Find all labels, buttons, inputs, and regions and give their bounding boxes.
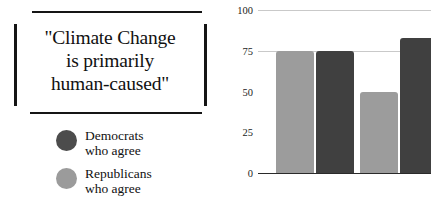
republicans-swatch-icon xyxy=(56,168,77,189)
bar-chart: 0255075100 AGE18-38AGE55+ xyxy=(238,0,431,218)
legend-label-democrats: Democrats who agree xyxy=(85,128,143,157)
legend-item-republicans: Republicans who agree xyxy=(56,166,206,195)
democrats-line-1: Democrats xyxy=(85,128,143,143)
y-tick-label-75: 75 xyxy=(243,45,259,56)
y-tick-label-0: 0 xyxy=(248,168,258,179)
democrats-swatch-icon xyxy=(56,130,77,151)
top-rule xyxy=(32,11,202,13)
y-tick-label-25: 25 xyxy=(243,127,259,138)
bar-1-1 xyxy=(276,51,314,173)
legend-label-republicans: Republicans who agree xyxy=(85,166,152,195)
legend: Democrats who agree Republicans who agre… xyxy=(56,128,206,204)
axis-baseline xyxy=(258,173,431,174)
quote-line-2: is primarily xyxy=(16,49,204,72)
bar-1-2 xyxy=(316,51,354,173)
quote-panel: "Climate Change is primarily human-cause… xyxy=(0,0,215,218)
infographic-root: "Climate Change is primarily human-cause… xyxy=(0,0,431,218)
quote-line-1: "Climate Change xyxy=(16,26,204,49)
gridline-100 xyxy=(258,10,431,11)
quote-line-3: human-caused" xyxy=(16,72,204,95)
republicans-line-2: who agree xyxy=(85,182,152,196)
bar-2-2 xyxy=(400,38,431,173)
quote-text: "Climate Change is primarily human-cause… xyxy=(16,26,204,95)
democrats-line-2: who agree xyxy=(85,144,143,158)
legend-item-democrats: Democrats who agree xyxy=(56,128,206,157)
y-tick-label-50: 50 xyxy=(243,86,259,97)
bottom-rule xyxy=(30,112,202,114)
republicans-line-1: Republicans xyxy=(85,166,152,181)
y-tick-label-100: 100 xyxy=(237,5,258,16)
plot-area: 0255075100 xyxy=(258,10,431,173)
right-bracket xyxy=(204,24,207,106)
bar-2-1 xyxy=(360,92,398,174)
